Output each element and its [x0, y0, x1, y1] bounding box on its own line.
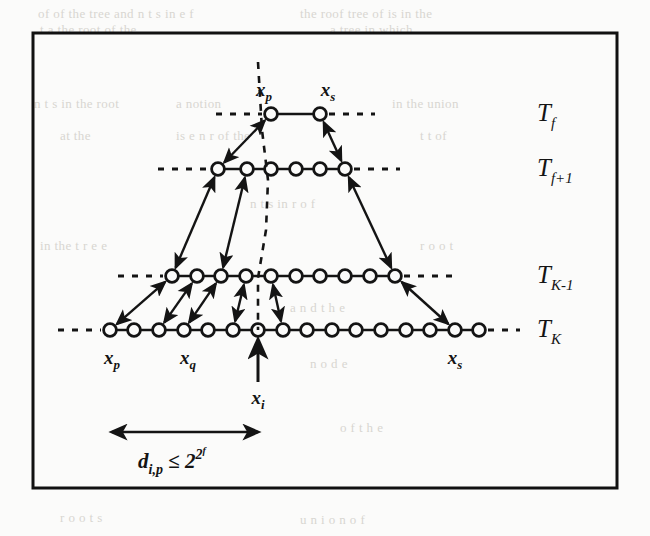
node-label-base: x	[250, 387, 261, 408]
level-connection-arrow	[273, 285, 281, 321]
formula-subscript: i,p	[149, 462, 163, 477]
node-label-subscript: s	[329, 89, 335, 104]
formula-exponent-subscript: f	[202, 445, 207, 456]
node-label-base: x	[320, 79, 331, 100]
tree-node[interactable]	[265, 270, 278, 283]
tree-node[interactable]	[153, 324, 166, 337]
tree-row-row-tf	[216, 108, 375, 121]
tree-row-row-tf1	[158, 163, 400, 176]
tree-diagram-canvas: TfTf+1TK-1TK xpxsxpxqxsxi di,p ≤ 22f	[0, 0, 650, 536]
level-connection-arrow	[324, 122, 342, 161]
formula-base: d	[138, 449, 149, 473]
node-labels: xpxsxpxqxsxi	[103, 79, 462, 412]
tree-row-row-tk	[58, 324, 520, 337]
row-label-subscript: K-1	[550, 277, 574, 293]
tree-row-row-tk1	[118, 270, 452, 283]
formula-exponent-base: 2	[194, 447, 202, 462]
tree-node[interactable]	[400, 324, 413, 337]
figure-root: of of the tree and n t s in e fthe roof …	[0, 0, 650, 536]
node-label-base: x	[179, 347, 190, 368]
tree-node[interactable]	[227, 324, 240, 337]
tree-node[interactable]	[339, 163, 352, 176]
tree-node[interactable]	[314, 108, 327, 121]
tree-node[interactable]	[301, 324, 314, 337]
row-label-subscript: f+1	[551, 170, 573, 186]
level-connection-arrows	[117, 121, 449, 325]
tree-node[interactable]	[290, 270, 303, 283]
tree-node[interactable]	[277, 324, 290, 337]
node-label-base: x	[103, 347, 114, 368]
tree-node[interactable]	[339, 270, 352, 283]
tree-node[interactable]	[265, 108, 278, 121]
tree-node[interactable]	[449, 324, 462, 337]
formula-power-base: 2	[184, 449, 196, 473]
node-label-subscript: p	[113, 357, 121, 372]
tree-node[interactable]	[389, 270, 402, 283]
node-label-xp-top: xp	[255, 79, 273, 104]
tree-node[interactable]	[212, 163, 225, 176]
tree-node[interactable]	[104, 324, 117, 337]
tree-node[interactable]	[290, 163, 303, 176]
node-label-subscript: i	[261, 397, 265, 412]
bound-formula-text: di,p ≤ 22f	[138, 445, 207, 477]
node-label-xp-bottom: xp	[103, 347, 121, 372]
node-label-base: x	[447, 347, 458, 368]
tree-node[interactable]	[314, 270, 327, 283]
level-connection-arrow	[224, 121, 265, 163]
level-connection-arrow	[189, 283, 216, 322]
node-label-subscript: q	[190, 357, 197, 372]
formula-relation: ≤	[163, 449, 185, 473]
figure-border	[33, 33, 617, 488]
tree-node[interactable]	[326, 324, 339, 337]
tree-node[interactable]	[178, 324, 191, 337]
row-label-subscript: f	[551, 115, 557, 131]
tree-node[interactable]	[350, 324, 363, 337]
node-label-base: x	[255, 79, 266, 100]
tree-node[interactable]	[424, 324, 437, 337]
level-connection-arrow	[235, 285, 244, 321]
tree-node[interactable]	[202, 324, 215, 337]
row-label-row-tk1: TK-1	[537, 261, 573, 293]
tree-node[interactable]	[364, 270, 377, 283]
tree-node[interactable]	[128, 324, 141, 337]
level-connection-arrow	[164, 283, 192, 322]
node-label-subscript: s	[456, 357, 462, 372]
tree-node[interactable]	[375, 324, 388, 337]
row-labels: TfTf+1TK-1TK	[537, 99, 573, 347]
tree-node[interactable]	[314, 163, 327, 176]
level-connection-arrow	[117, 282, 165, 324]
tree-rows	[58, 108, 520, 337]
node-label-subscript: p	[265, 89, 273, 104]
node-label-xi: xi	[250, 387, 265, 412]
tree-node[interactable]	[241, 163, 254, 176]
row-label-row-tk: TK	[537, 315, 562, 347]
level-connection-arrow	[176, 177, 215, 267]
tree-node[interactable]	[166, 270, 179, 283]
row-label-row-tf1: Tf+1	[537, 154, 573, 186]
node-label-xs-bottom: xs	[447, 347, 463, 372]
tree-node[interactable]	[240, 270, 253, 283]
tree-node[interactable]	[191, 270, 204, 283]
tree-node[interactable]	[215, 270, 228, 283]
level-connection-arrow	[349, 177, 391, 268]
level-connection-arrow	[223, 178, 245, 268]
row-label-row-tf: Tf	[537, 99, 557, 131]
level-connection-arrow	[402, 282, 449, 324]
row-label-subscript: K	[550, 331, 562, 347]
node-label-xq-bottom: xq	[179, 347, 197, 372]
node-label-xs-top: xs	[320, 79, 336, 104]
bound-formula: di,p ≤ 22f	[138, 445, 207, 477]
tree-node[interactable]	[473, 324, 486, 337]
